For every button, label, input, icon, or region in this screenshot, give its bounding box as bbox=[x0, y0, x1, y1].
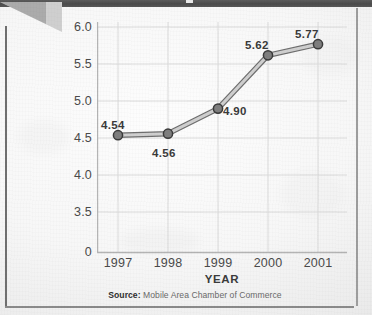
y-tick-label: 4.0 bbox=[58, 168, 92, 182]
x-tick-label: 1999 bbox=[197, 256, 239, 270]
chart-plot-area bbox=[97, 22, 347, 254]
line-chart-svg bbox=[97, 22, 347, 254]
x-tick-label: 2000 bbox=[247, 256, 289, 270]
data-point-label: 5.77 bbox=[295, 28, 319, 40]
page-border-bottom bbox=[5, 306, 354, 308]
x-tick-label: 2001 bbox=[297, 256, 339, 270]
page-border-right bbox=[356, 8, 358, 306]
data-point-label: 4.54 bbox=[101, 119, 125, 131]
source-text: Mobile Area Chamber of Commerce bbox=[143, 290, 282, 300]
data-point-marker bbox=[113, 131, 122, 140]
y-axis-subtitle: (billions of dollars) bbox=[30, 86, 54, 206]
y-tick-label: 0 bbox=[58, 245, 92, 259]
x-axis-title: YEAR bbox=[97, 273, 347, 285]
data-point-label: 4.56 bbox=[152, 147, 176, 159]
y-tick-label: 5.0 bbox=[58, 94, 92, 108]
data-point-label: 5.62 bbox=[245, 39, 269, 51]
data-point-label: 4.90 bbox=[223, 105, 247, 117]
x-tick-label: 1998 bbox=[147, 256, 189, 270]
data-point-marker bbox=[163, 129, 172, 138]
y-tick-label: 6.0 bbox=[58, 20, 92, 34]
page-curl-shadow bbox=[0, 2, 46, 24]
scanned-chart-page: 6.0 5.5 5.0 4.5 4.0 3.5 0 1997 1998 1999… bbox=[0, 0, 372, 315]
y-tick-label: 3.5 bbox=[58, 205, 92, 219]
data-point-marker bbox=[313, 40, 322, 49]
data-point-marker bbox=[263, 51, 272, 60]
source-credit: Source: Mobile Area Chamber of Commerce bbox=[50, 290, 340, 300]
scan-top-strip-notch bbox=[186, 0, 193, 3]
y-tick-label: 5.5 bbox=[58, 57, 92, 71]
y-tick-label: 4.5 bbox=[58, 131, 92, 145]
page-border-left bbox=[5, 26, 7, 308]
source-label: Source: bbox=[108, 290, 140, 300]
x-tick-label: 1997 bbox=[97, 256, 139, 270]
data-point-marker bbox=[213, 104, 222, 113]
horizontal-gridlines bbox=[97, 27, 347, 212]
